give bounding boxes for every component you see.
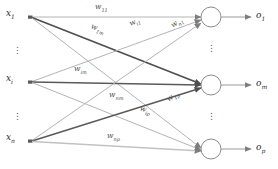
weight-label-wim: wim: [74, 65, 87, 75]
output-neurons: [201, 7, 221, 159]
output-label-om: om: [256, 79, 267, 90]
input-label-xi: xi: [6, 74, 13, 85]
weight-label-wnm: wnm: [109, 91, 123, 101]
output-ellipsis-bottom: ...: [210, 110, 213, 119]
weight-label-wnp: wnp: [107, 132, 120, 142]
edge-wnp: [32, 142, 201, 152]
input-terminals: [28, 16, 33, 143]
output-label-op: op: [256, 143, 265, 154]
input-ellipsis-bottom: ...: [16, 110, 19, 119]
input-ellipsis-top: ...: [16, 44, 19, 53]
input-terminal-xi: [28, 81, 33, 84]
input-label-x1: x1: [6, 9, 15, 20]
output-ellipsis-top: ...: [210, 42, 213, 51]
input-label-xn: xn: [6, 133, 15, 144]
neuron-o1: [201, 7, 221, 27]
input-terminal-xn: [28, 140, 33, 143]
weight-label-w11: w11: [95, 3, 108, 13]
diagram-canvas: x1 xi xn o1 om op w11 w1m wi1 wn1 wim wn…: [0, 0, 278, 169]
output-label-o1: o1: [256, 11, 265, 22]
neuron-op: [201, 139, 221, 159]
edges-from-xi: [32, 20, 201, 150]
neuron-om: [201, 75, 221, 95]
output-arrows: [221, 17, 251, 149]
